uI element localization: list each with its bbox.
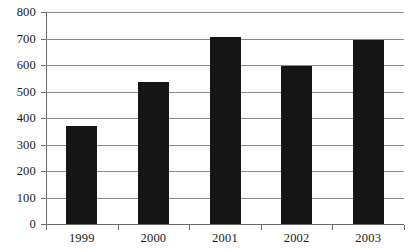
gridline <box>46 224 404 225</box>
x-axis-tick-label: 2002 <box>284 232 310 245</box>
y-axis-tick-label: 400 <box>17 112 36 125</box>
y-axis-tick-label: 300 <box>17 139 36 152</box>
bar <box>66 126 97 224</box>
x-axis-tick-label: 2000 <box>140 232 166 245</box>
y-axis-tick-label: 500 <box>17 86 36 99</box>
y-axis-tick-mark <box>41 198 46 199</box>
y-axis-tick-label: 800 <box>17 6 36 19</box>
x-axis-tick-mark <box>189 225 190 230</box>
x-axis-tick-label-group: 19992000200120022003 <box>46 232 404 252</box>
y-axis-tick-mark <box>41 65 46 66</box>
x-axis-tick-label: 2001 <box>212 232 238 245</box>
y-axis-tick-mark <box>41 118 46 119</box>
bar <box>353 40 384 224</box>
x-axis-tick-label: 2003 <box>355 232 381 245</box>
y-axis-tick-label: 0 <box>30 218 36 231</box>
bar-chart: 0100200300400500600700800 19992000200120… <box>0 0 410 252</box>
x-axis-tick-mark <box>332 225 333 230</box>
y-axis-tick-mark <box>41 224 46 225</box>
y-axis-tick-mark <box>41 39 46 40</box>
y-axis-tick-mark <box>41 171 46 172</box>
bar-group <box>46 12 404 224</box>
y-axis-tick-label-group: 0100200300400500600700800 <box>0 0 46 252</box>
bar <box>281 66 312 224</box>
x-axis-tick-label: 1999 <box>69 232 95 245</box>
x-axis-tick-mark <box>404 225 405 230</box>
x-axis-tick-mark <box>46 225 47 230</box>
bar <box>210 37 241 224</box>
bar <box>138 82 169 224</box>
x-axis-tick-mark <box>261 225 262 230</box>
y-axis-tick-mark <box>41 145 46 146</box>
y-axis-tick-mark <box>41 92 46 93</box>
y-axis-tick-label: 700 <box>17 33 36 46</box>
x-axis-tick-mark <box>118 225 119 230</box>
y-axis-tick-label: 200 <box>17 165 36 178</box>
y-axis-tick-mark <box>41 12 46 13</box>
y-axis-tick-label: 100 <box>17 192 36 205</box>
y-axis-tick-label: 600 <box>17 59 36 72</box>
